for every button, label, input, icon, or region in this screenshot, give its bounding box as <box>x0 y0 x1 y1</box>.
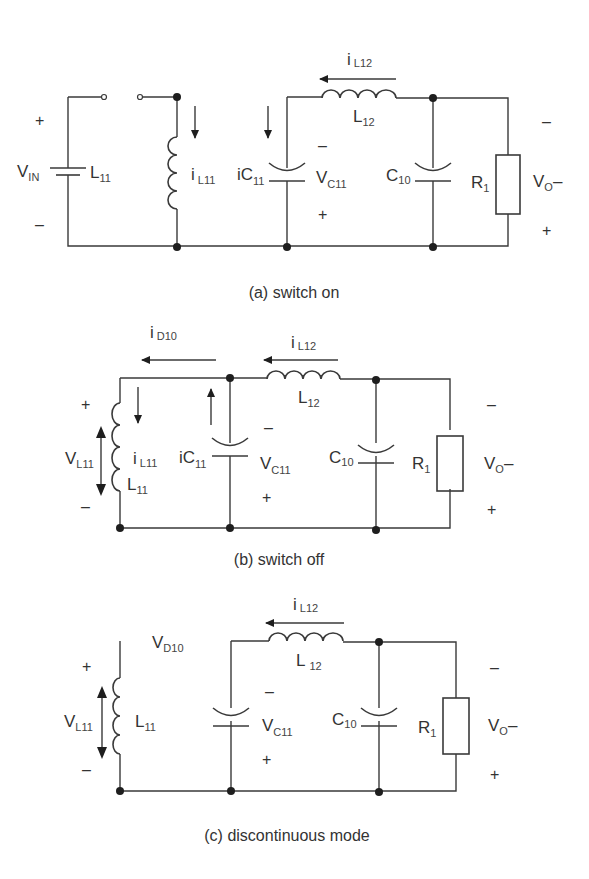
label-vo: V <box>488 716 500 735</box>
circuit-figure: VIN L11 iL11 iC11 VC11 iL12 L12 C10 R1 V… <box>0 0 589 879</box>
label-id10: i <box>150 323 154 342</box>
svg-text:VL11: VL11 <box>65 449 94 470</box>
svg-text:VC11: VC11 <box>260 454 291 476</box>
svg-text:VL11: VL11 <box>64 712 93 733</box>
label-il11: i <box>133 449 137 468</box>
node <box>372 376 380 384</box>
sign-plus: + <box>82 658 91 675</box>
label-il12: i <box>347 50 351 69</box>
sign-plus: + <box>490 766 499 783</box>
inductor-l11 <box>113 678 120 754</box>
sign-minus: – <box>487 396 496 413</box>
label-ic11: iC <box>179 448 195 467</box>
label-vo: V <box>484 454 496 473</box>
inductor-l11 <box>168 137 177 209</box>
svg-text:L11: L11 <box>127 475 148 496</box>
sign-minus: – <box>35 216 44 233</box>
label-vl11: V <box>64 712 76 731</box>
panel-b-switch-off: iD10 VL11 iL11 L11 iC11 VC11 iL12 L12 C1… <box>65 323 514 568</box>
resistor-r1 <box>496 155 520 214</box>
inductor-l12 <box>267 371 340 379</box>
label-c10: C <box>329 448 341 467</box>
label-r1: R <box>412 454 424 473</box>
node <box>375 638 383 646</box>
node <box>283 243 291 251</box>
svg-text:iL12: iL12 <box>293 595 318 614</box>
label-c10: C <box>386 166 398 185</box>
svg-text:iL11: iL11 <box>133 449 157 469</box>
sign-minus: – <box>81 498 90 515</box>
label-vd10: V <box>152 633 164 652</box>
svg-text:iL12: iL12 <box>291 333 316 352</box>
sign-plus: + <box>81 396 90 413</box>
node <box>173 93 181 101</box>
label-l12: L <box>296 651 305 670</box>
sign-plus: + <box>542 222 551 239</box>
sign-minus: – <box>82 761 91 778</box>
sign-plus: + <box>262 489 271 506</box>
node <box>116 787 124 795</box>
svg-text:VO–: VO– <box>533 172 563 193</box>
label-l11: L <box>90 163 99 182</box>
sign-minus: – <box>318 137 327 154</box>
sign-plus: + <box>35 112 44 129</box>
wire <box>120 489 450 528</box>
label-il11: i <box>191 165 195 184</box>
panel-a-switch-on: VIN L11 iL11 iC11 VC11 iL12 L12 C10 R1 V… <box>17 50 563 301</box>
sign-plus: + <box>262 751 271 768</box>
sign-minus: – <box>490 659 499 676</box>
node <box>429 94 437 102</box>
switch-contact <box>138 95 143 100</box>
svg-text:VO–: VO– <box>488 716 518 737</box>
label-c10: C <box>332 710 344 729</box>
resistor-r1 <box>437 436 463 491</box>
node <box>227 787 235 795</box>
wire <box>340 379 450 430</box>
svg-text:R1: R1 <box>418 718 436 739</box>
node <box>226 374 234 382</box>
label-l11: L <box>127 475 136 494</box>
node <box>116 524 124 532</box>
label-r1: R <box>471 173 483 192</box>
node <box>226 524 234 532</box>
panel-c-discontinuous-mode: VD10 VL11 L11 VC11 iL12 L12 C10 R1 VO– +… <box>64 595 518 844</box>
svg-text:VC11: VC11 <box>316 168 347 190</box>
inductor-l12 <box>322 90 396 98</box>
label-ic11: iC <box>237 165 253 184</box>
svg-text:R1: R1 <box>471 173 489 194</box>
svg-text:C10: C10 <box>329 448 354 468</box>
wire <box>68 175 508 246</box>
svg-text:C10: C10 <box>332 710 357 730</box>
label-l11: L <box>135 712 144 731</box>
sign-minus: – <box>264 419 273 436</box>
battery-vin <box>50 168 86 175</box>
svg-text:L11: L11 <box>90 163 111 184</box>
label-vc11: V <box>316 168 328 187</box>
svg-text:iL12: iL12 <box>347 50 372 69</box>
wire <box>120 754 456 791</box>
inductor-l11 <box>112 403 120 491</box>
resistor-r1 <box>443 698 469 754</box>
caption-a: (a) switch on <box>249 284 340 301</box>
node <box>429 243 437 251</box>
caption-c: (c) discontinuous mode <box>204 827 370 844</box>
svg-text:L12: L12 <box>353 107 375 128</box>
svg-text:iL11: iL11 <box>191 165 215 186</box>
label-vc11: V <box>262 716 274 735</box>
label-vin: V <box>17 162 29 181</box>
svg-text:R1: R1 <box>412 454 430 475</box>
sign-plus: + <box>487 501 496 518</box>
label-il12: i <box>293 595 297 614</box>
label-vo: V <box>533 172 545 191</box>
sign-plus: + <box>318 206 327 223</box>
svg-text:L12: L12 <box>296 651 322 672</box>
svg-text:iD10: iD10 <box>150 323 177 342</box>
label-vl11: V <box>65 449 77 468</box>
inductor-l12 <box>269 633 343 641</box>
label-vc11: V <box>260 454 272 473</box>
label-l12: L <box>353 107 362 126</box>
svg-text:VD10: VD10 <box>152 633 184 654</box>
svg-text:iC11: iC11 <box>237 165 264 187</box>
label-l12: L <box>298 388 307 407</box>
node <box>372 526 380 534</box>
